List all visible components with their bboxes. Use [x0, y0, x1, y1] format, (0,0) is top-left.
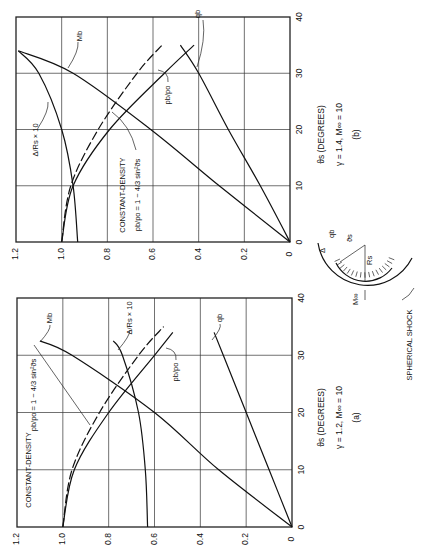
value-axis-ticks: 00.20.40.60.81.01.2 — [10, 248, 294, 260]
tick-label: 1.0 — [56, 248, 66, 260]
tick-label: 0 — [294, 239, 304, 244]
curve-mb — [18, 51, 290, 242]
tick-label: 1.2 — [10, 248, 20, 260]
panel-caption: (b) — [351, 129, 361, 140]
tick-label: 0.2 — [240, 533, 250, 545]
curves — [40, 327, 292, 527]
tick-label: 0.6 — [149, 533, 159, 545]
tick-label: 40 — [296, 293, 306, 303]
label-pb: pb/po — [163, 86, 172, 105]
tick-label: 30 — [296, 350, 306, 360]
panel-params: γ = 1.4, M∞ = 10 — [334, 103, 344, 166]
tick-label: 1.0 — [57, 533, 67, 545]
tick-label: 30 — [294, 68, 304, 78]
label-constant-density: CONSTANT-DENSITY — [24, 432, 33, 507]
label-constant-density: CONSTANT-DENSITY — [118, 157, 127, 232]
tick-label: 20 — [296, 408, 306, 418]
tick-label: 0.4 — [195, 533, 205, 545]
label-theta-sketch: ϑs — [345, 234, 354, 242]
spherical-shock-sketch: M∞qbΔϑsRsSPHERICAL SHOCK — [318, 230, 414, 381]
label-spherical-shock: SPHERICAL SHOCK — [405, 310, 414, 381]
label-delta-sketch: Δ — [318, 248, 327, 253]
curve-qb — [180, 45, 290, 242]
label-pb: pb/po — [171, 363, 180, 382]
grid — [16, 17, 290, 242]
value-axis-ticks: 00.20.40.60.81.01.2 — [11, 533, 296, 545]
tick-label: 0 — [286, 536, 296, 541]
tick-label: 0 — [296, 524, 306, 529]
curve-pb — [62, 45, 194, 242]
label-constant-density-eq: pb/po = 1 − 4/3 sin²ϑs — [133, 159, 142, 232]
label-constant-density-eq: pb/po = 1 − 4/3 sin²ϑs — [29, 359, 38, 432]
tick-label: 0.6 — [147, 248, 157, 260]
theta-axis-ticks: 010203040 — [294, 12, 304, 244]
tick-label: 0 — [284, 251, 294, 256]
tick-label: 0.4 — [193, 248, 203, 260]
figure: 00.20.40.60.81.01.2010203040Mbqbpb/poΔ/R… — [0, 0, 425, 558]
label-minf: M∞ — [351, 293, 360, 305]
tick-label: 20 — [294, 125, 304, 135]
label-qb: qb — [193, 10, 202, 18]
tick-label: 10 — [296, 465, 306, 475]
theta-axis-ticks: 010203040 — [296, 293, 306, 529]
label-qb-sketch: qb — [327, 230, 336, 238]
panel-caption: (a) — [351, 412, 361, 423]
panel-params: γ = 1.2, M∞ = 10 — [334, 386, 344, 449]
tick-label: 0.8 — [103, 533, 113, 545]
label-mb: Mb — [45, 313, 54, 323]
label-mb: Mb — [75, 31, 84, 41]
tick-label: 40 — [294, 12, 304, 22]
panel-a: 00.20.40.60.81.01.2010203040MbΔ/Rs × 10p… — [11, 293, 361, 545]
curve-labels: MbΔ/Rs × 10pb/poqbCONSTANT-DENSITYpb/po … — [24, 301, 224, 507]
curve-delta — [113, 341, 147, 527]
label-rs-sketch: Rs — [365, 256, 374, 265]
axis-title: ϑs (DEGREES) — [316, 388, 326, 447]
tick-label: 0.2 — [239, 248, 249, 260]
body-arc — [336, 263, 392, 281]
curves — [18, 45, 290, 242]
tick-label: 1.2 — [11, 533, 21, 545]
curve-pb — [63, 332, 173, 527]
panel-b: 00.20.40.60.81.01.2010203040Mbqbpb/poΔ/R… — [10, 10, 361, 260]
tick-label: 10 — [294, 181, 304, 191]
label-qb: qb — [215, 314, 224, 322]
curve-const-density — [62, 45, 162, 242]
curve-delta — [18, 51, 77, 242]
label-delta: Δ/Rs × 10 — [125, 301, 134, 334]
tick-label: 0.8 — [102, 248, 112, 260]
axis-title: ϑs (DEGREES) — [316, 105, 326, 164]
curve-const-density — [63, 327, 164, 527]
label-delta: Δ/Rs × 10 — [31, 123, 40, 156]
